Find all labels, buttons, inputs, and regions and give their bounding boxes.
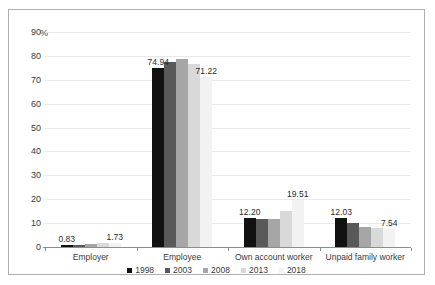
bar-2008[interactable] [176, 59, 188, 247]
bar-value-label: 19.51 [285, 189, 311, 199]
plot-area [45, 32, 411, 247]
y-axis-tick-label: 20 [31, 195, 41, 204]
bar-1998[interactable] [152, 68, 164, 247]
y-axis-tick-label: 70 [31, 76, 41, 85]
legend-item-2008[interactable]: 2008 [203, 266, 230, 275]
legend-item-1998[interactable]: 1998 [127, 266, 154, 275]
y-axis-tick-label: 10 [31, 219, 41, 228]
x-axis-category-label: Unpaid family worker [320, 252, 412, 262]
y-axis-tick-label: 50 [31, 124, 41, 133]
bar-value-label: 74.94 [145, 57, 171, 67]
bar-2008[interactable] [268, 219, 280, 247]
bar-2013[interactable] [371, 228, 383, 247]
bar-value-label: 12.20 [237, 207, 263, 217]
bar-1998[interactable] [335, 218, 347, 247]
bar-1998[interactable] [244, 218, 256, 247]
y-axis-tick-label: 40 [31, 147, 41, 156]
x-axis-category-label: Employee [137, 252, 229, 262]
legend-swatch-icon [165, 268, 170, 273]
legend-label: 2003 [173, 266, 192, 275]
legend-swatch-icon [127, 268, 132, 273]
bar-2018[interactable] [383, 229, 395, 247]
bar-value-label: 7.54 [376, 218, 402, 228]
bar-2018[interactable] [200, 77, 212, 247]
y-axis: 9080706050403020100 [17, 10, 41, 270]
legend-label: 2008 [211, 266, 230, 275]
y-axis-tick-label: 90 [31, 28, 41, 37]
bar-value-label: 1.73 [102, 232, 128, 242]
bar-2013[interactable] [280, 211, 292, 247]
x-axis-category-label: Employer [45, 252, 137, 262]
bar-value-label: 0.83 [54, 234, 80, 244]
x-axis-tick [45, 248, 46, 251]
bar-2003[interactable] [256, 219, 268, 247]
y-axis-tick-label: 0 [36, 243, 41, 252]
bar-2018[interactable] [292, 200, 304, 247]
legend-label: 1998 [135, 266, 154, 275]
legend-swatch-icon [203, 268, 208, 273]
y-axis-tick-label: 60 [31, 100, 41, 109]
x-axis-tick [320, 248, 321, 251]
legend-label: 2013 [249, 266, 268, 275]
legend-swatch-icon [279, 268, 284, 273]
chart-legend: 19982003200820132018 [9, 266, 424, 275]
legend-label: 2018 [287, 266, 306, 275]
bar-2003[interactable] [347, 223, 359, 247]
bar-value-label: 71.22 [193, 66, 219, 76]
bar-2013[interactable] [188, 64, 200, 247]
legend-item-2003[interactable]: 2003 [165, 266, 192, 275]
bars-row [45, 32, 137, 247]
bar-group [45, 32, 137, 247]
x-axis-category-label: Own account worker [228, 252, 320, 262]
y-axis-tick-label: 30 [31, 171, 41, 180]
legend-item-2013[interactable]: 2013 [241, 266, 268, 275]
x-axis-tick [228, 248, 229, 251]
x-axis-tick [137, 248, 138, 251]
legend-item-2018[interactable]: 2018 [279, 266, 306, 275]
bar-2008[interactable] [359, 227, 371, 247]
bar-value-label: 12.03 [328, 207, 354, 217]
x-axis-line [43, 247, 411, 248]
legend-swatch-icon [241, 268, 246, 273]
y-axis-tick-label: 80 [31, 52, 41, 61]
chart-frame: % 9080706050403020100 199820032008201320… [8, 9, 425, 275]
x-axis-tick [411, 248, 412, 251]
bar-2003[interactable] [164, 62, 176, 247]
